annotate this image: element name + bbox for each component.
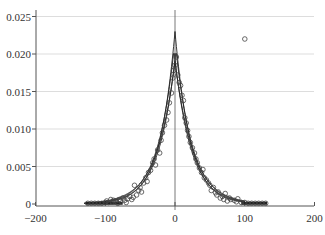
x-tick-label: −200 (24, 212, 47, 224)
fit-curves (84, 32, 267, 204)
x-tick-label: −100 (94, 212, 117, 224)
x-tick-label: 200 (306, 212, 323, 224)
y-tick-labels: 00.0050.0100.0150.0200.025 (6, 11, 36, 211)
x-tick-labels: −200−1000100200 (24, 202, 323, 224)
data-point (132, 183, 137, 188)
x-tick-label: 0 (172, 212, 178, 224)
y-tick-label: 0.010 (6, 123, 31, 135)
y-tick-label: 0 (26, 198, 32, 210)
fit-line (84, 53, 245, 203)
data-point (243, 37, 248, 42)
x-tick-label: 100 (237, 212, 254, 224)
chart: 00.0050.0100.0150.0200.025 −200−10001002… (0, 0, 325, 235)
data-point (134, 193, 139, 198)
y-tick-label: 0.015 (6, 86, 31, 98)
y-tick-label: 0.005 (6, 161, 31, 173)
y-tick-label: 0.025 (6, 11, 31, 23)
axes (36, 10, 314, 210)
scatter-points (86, 37, 269, 206)
y-tick-label: 0.020 (6, 48, 31, 60)
